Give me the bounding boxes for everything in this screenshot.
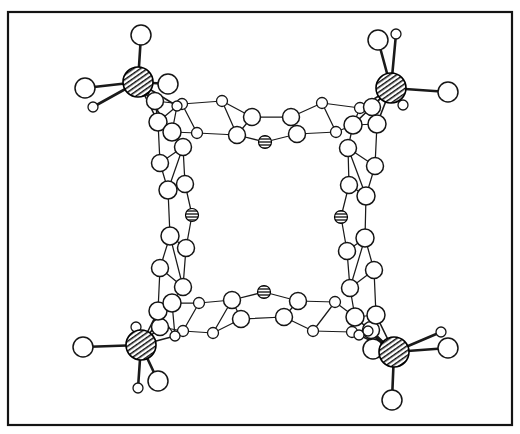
metal-center-bottom-left [126, 330, 156, 360]
terminal-ligand-large [368, 30, 388, 50]
bridging-heteroatom-bottom [258, 286, 271, 299]
ring-atom-large [346, 308, 364, 326]
ring-atom-large [163, 294, 181, 312]
metal-center-top-left [123, 67, 153, 97]
ring-atom-large [152, 319, 169, 336]
ring-atom-large [229, 127, 246, 144]
figure-border [8, 12, 512, 425]
ring-atom-large [159, 181, 177, 199]
bridging-heteroatoms [186, 136, 348, 299]
ring-atom-small [208, 328, 219, 339]
ring-atom-large [367, 158, 384, 175]
molecular-structure-svg [0, 0, 520, 434]
ring-atom-large [340, 140, 357, 157]
ring-atom-small [331, 127, 342, 138]
ring-atom-small [194, 298, 205, 309]
terminal-ligand-large [438, 338, 458, 358]
ring-atom-large [283, 109, 300, 126]
ring-atom-small [330, 297, 341, 308]
ring-atom-large [177, 176, 194, 193]
ring-atom-large [233, 311, 250, 328]
terminal-ligand-small [88, 102, 98, 112]
ring-atom-large [224, 292, 241, 309]
bridging-heteroatom-left [186, 209, 199, 222]
ring-atom-large [366, 262, 383, 279]
ring-atom-large [341, 177, 358, 194]
terminal-ligand-small [398, 100, 408, 110]
metal-center-top-right [376, 73, 406, 103]
ring-atom-large [356, 229, 374, 247]
ring-atom-large [342, 280, 359, 297]
ring-atom-small [308, 326, 319, 337]
ring-atom-small [317, 98, 328, 109]
ring-atom-large [147, 93, 164, 110]
macrocycle-bottom-outer [160, 317, 371, 333]
macrocycle-left-outer [158, 122, 170, 311]
ring-atom-large [175, 279, 192, 296]
ring-atom-large [244, 109, 261, 126]
terminal-ligand-large [382, 390, 402, 410]
bridging-heteroatom-top [259, 136, 272, 149]
figure-root [0, 0, 520, 434]
ring-atom-small [217, 96, 228, 107]
ring-atom-large [368, 115, 386, 133]
ring-atom-large [178, 240, 195, 257]
bridging-heteroatom-right [335, 211, 348, 224]
terminal-ligand-large [73, 337, 93, 357]
ring-atom-large [289, 126, 306, 143]
ring-atom-large [357, 187, 375, 205]
ring-atom-small [170, 331, 180, 341]
ring-atom-large [344, 116, 362, 134]
ring-atom-large [364, 99, 381, 116]
ring-atom-large [339, 243, 356, 260]
terminal-ligand-large [131, 25, 151, 45]
ring-atom-large [367, 306, 385, 324]
terminal-ligand-large [148, 371, 168, 391]
ring-atom-small [172, 101, 182, 111]
ring-atom-large [290, 293, 307, 310]
terminal-ligand-small [133, 383, 143, 393]
ring-atom-large [276, 309, 293, 326]
ring-atom-large [152, 260, 169, 277]
terminal-ligand-small [391, 29, 401, 39]
terminal-ligand-small [436, 327, 446, 337]
metal-center-bottom-right [379, 337, 409, 367]
ring-atom-large [175, 139, 192, 156]
terminal-ligand-large [75, 78, 95, 98]
framework-atoms [147, 93, 387, 342]
terminal-ligand-large [438, 82, 458, 102]
ring-atom-small [192, 128, 203, 139]
terminal-ligand-small [363, 326, 373, 336]
terminal-ligand-large [158, 74, 178, 94]
ring-atom-large [163, 123, 181, 141]
macrocycle-right-outer [365, 124, 377, 315]
ring-atom-large [152, 155, 169, 172]
ring-atom-large [161, 227, 179, 245]
